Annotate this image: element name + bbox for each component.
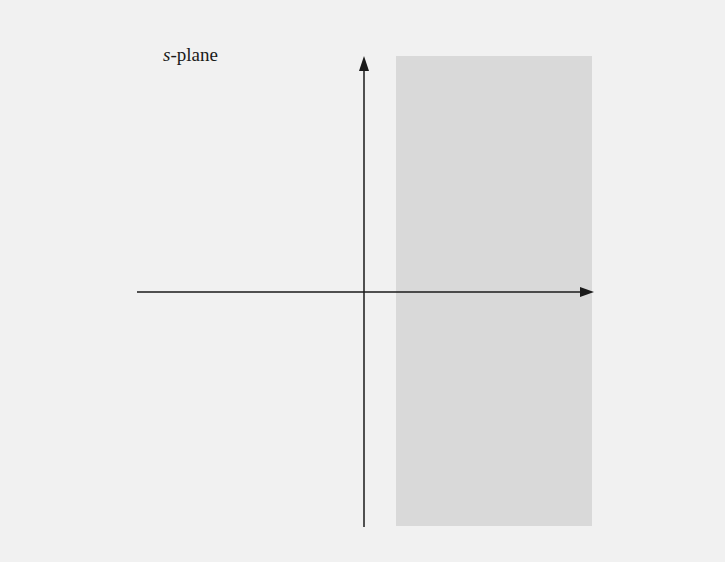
shaded-region <box>396 56 592 526</box>
plane-suffix: -plane <box>170 44 217 65</box>
imaginary-axis-arrowhead-icon <box>359 56 369 71</box>
s-plane-diagram <box>0 0 725 562</box>
s-plane-label: s-plane <box>163 44 218 66</box>
